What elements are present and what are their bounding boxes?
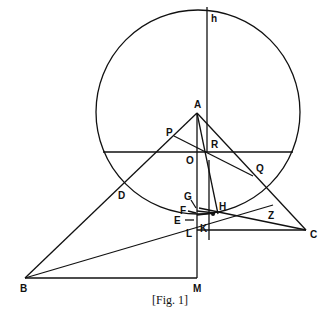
- label-K: K: [200, 223, 208, 234]
- label-M: M: [193, 283, 201, 294]
- point-H: [211, 212, 215, 216]
- label-B: B: [20, 283, 27, 294]
- great-circle: [96, 10, 300, 214]
- label-R: R: [211, 139, 219, 150]
- arrow-F: [188, 211, 196, 213]
- label-F: F: [180, 205, 186, 216]
- label-Z: Z: [268, 210, 274, 221]
- geometry-diagram: h A P R O Q D G F E H Z K L C B M [Fig. …: [0, 0, 332, 324]
- label-h: h: [211, 13, 217, 24]
- label-Q: Q: [256, 163, 264, 174]
- label-D: D: [118, 190, 125, 201]
- figure-caption: [Fig. 1]: [152, 293, 188, 307]
- label-L: L: [186, 228, 192, 239]
- label-O: O: [186, 155, 194, 166]
- label-H: H: [219, 201, 226, 212]
- label-G: G: [184, 191, 192, 202]
- label-P: P: [166, 127, 173, 138]
- label-E: E: [174, 215, 181, 226]
- label-C: C: [310, 229, 317, 240]
- label-A: A: [194, 99, 201, 110]
